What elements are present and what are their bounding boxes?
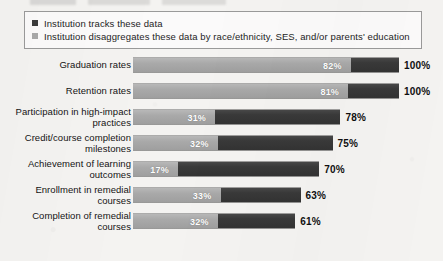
chart-legend: Institution tracks these data Institutio…: [24, 11, 422, 49]
value-label-disaggregates: 82%: [323, 60, 342, 70]
category-label: Completion of remedial courses: [3, 211, 131, 232]
category-label: Achievement of learning outcomes: [3, 159, 131, 180]
bar-disaggregates-data: [133, 84, 348, 99]
legend-item-label: Institution tracks these data: [44, 18, 163, 29]
legend-item-tracks: Institution tracks these data: [32, 17, 414, 29]
bar-group: 33%63%: [133, 188, 439, 203]
legend-item-disaggregates: Institution disaggregates these data by …: [32, 30, 414, 42]
category-label: Enrollment in remedial courses: [3, 185, 131, 206]
value-label-tracks: 63%: [306, 190, 327, 201]
light-square-icon: [32, 33, 38, 39]
bar-group: 81%100%: [133, 84, 439, 99]
value-label-tracks: 61%: [300, 216, 321, 227]
bar-group: 82%100%: [133, 58, 439, 73]
value-label-tracks: 100%: [404, 60, 430, 71]
category-label: Retention rates: [3, 86, 131, 97]
value-label-tracks: 70%: [324, 164, 345, 175]
bar-group: 17%70%: [133, 162, 439, 177]
category-label: Participation in high-impact practices: [3, 107, 131, 128]
dark-square-icon: [32, 20, 38, 26]
value-label-disaggregates: 31%: [187, 112, 206, 122]
legend-item-label: Institution disaggregates these data by …: [44, 31, 410, 42]
bar-chart-plot-area: Graduation rates82%100%Retention rates81…: [0, 52, 443, 261]
bar-group: 32%61%: [133, 214, 439, 229]
category-label: Graduation rates: [3, 60, 131, 71]
value-label-disaggregates: 32%: [190, 138, 209, 148]
page-bleed-artifact: [30, 0, 280, 5]
bar-group: 32%75%: [133, 136, 439, 151]
chart-row: Enrollment in remedial courses33%63%: [0, 182, 443, 208]
value-label-disaggregates: 17%: [150, 164, 169, 174]
chart-row: Completion of remedial courses32%61%: [0, 208, 443, 234]
bar-group: 31%78%: [133, 110, 439, 125]
value-label-disaggregates: 33%: [193, 190, 212, 200]
value-label-tracks: 78%: [345, 112, 366, 123]
chart-row: Retention rates81%100%: [0, 78, 443, 104]
chart-row: Graduation rates82%100%: [0, 52, 443, 78]
value-label-disaggregates: 81%: [320, 86, 339, 96]
value-label-disaggregates: 32%: [190, 216, 209, 226]
bar-disaggregates-data: [133, 58, 351, 73]
chart-row: Achievement of learning outcomes17%70%: [0, 156, 443, 182]
value-label-tracks: 100%: [404, 86, 430, 97]
chart-row: Participation in high-impact practices31…: [0, 104, 443, 130]
value-label-tracks: 75%: [338, 138, 359, 149]
chart-row: Credit/course completion milestones32%75…: [0, 130, 443, 156]
category-label: Credit/course completion milestones: [3, 133, 131, 154]
